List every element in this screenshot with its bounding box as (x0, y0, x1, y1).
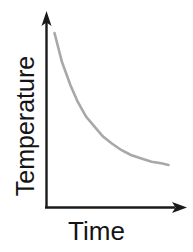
y-axis-label: Temperature (13, 56, 38, 196)
x-axis-label: Time (0, 218, 193, 244)
y-axis-label-container: Temperature (0, 0, 50, 252)
data-series-cooling-curve (55, 33, 169, 165)
cooling-curve-figure: Temperature Time (0, 0, 193, 252)
